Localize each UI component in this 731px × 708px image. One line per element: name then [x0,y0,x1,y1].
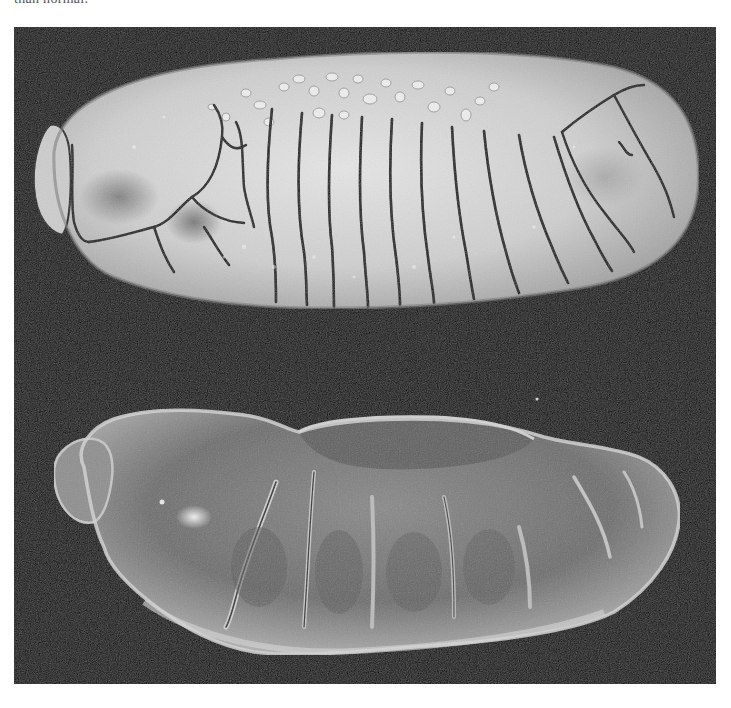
top-specimen [34,52,699,308]
caption-fragment: than normal. [14,0,88,7]
micrograph-figure [14,27,716,684]
